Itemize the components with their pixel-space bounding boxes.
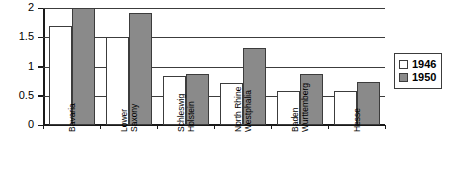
y-axis-tick-label: 2 <box>2 2 34 13</box>
x-axis-tick-mark <box>328 125 329 129</box>
legend-swatch-1950 <box>399 73 408 82</box>
category-label-north-rhine-westphalia: North RhineWestphalia <box>234 72 253 132</box>
category-label-line: Saxony <box>130 72 140 132</box>
legend-label-1946: 1946 <box>412 59 436 70</box>
chart-legend: 1946 1950 <box>394 53 442 89</box>
x-axis-tick-mark <box>43 125 44 129</box>
x-axis-tick-mark <box>100 125 101 129</box>
y-axis-tick-label: 0 <box>2 119 34 130</box>
category-label-line: Wurttemberg <box>301 72 311 132</box>
category-label-line: Bavaria <box>68 72 78 132</box>
y-axis-tick-label: 0.5 <box>2 90 34 101</box>
bar-chart: 00.511.52 BavariaLowerSaxonySchleswigHol… <box>0 0 457 187</box>
category-label-bavaria: Bavaria <box>68 72 78 132</box>
legend-label-1950: 1950 <box>412 72 436 83</box>
plot-area <box>43 8 385 125</box>
legend-item: 1950 <box>399 72 436 83</box>
x-axis-tick-mark <box>385 125 386 129</box>
category-label-line: Hesse <box>353 72 363 132</box>
y-axis-tick-label: 1.5 <box>2 31 34 42</box>
legend-item: 1946 <box>399 59 436 70</box>
x-axis-tick-mark <box>214 125 215 129</box>
category-label-schleswig-holstein: SchleswigHolstein <box>177 72 196 132</box>
category-label-hesse: Hesse <box>353 72 363 132</box>
y-axis-tick-label: 1 <box>2 61 34 72</box>
legend-swatch-1946 <box>399 60 408 69</box>
category-label-baden-wurttemberg: BadenWurttemberg <box>291 72 310 132</box>
x-axis-tick-mark <box>157 125 158 129</box>
category-label-line: Holstein <box>187 72 197 132</box>
x-axis-tick-mark <box>271 125 272 129</box>
category-label-line: Westphalia <box>244 72 254 132</box>
category-label-lower-saxony: LowerSaxony <box>120 72 139 132</box>
